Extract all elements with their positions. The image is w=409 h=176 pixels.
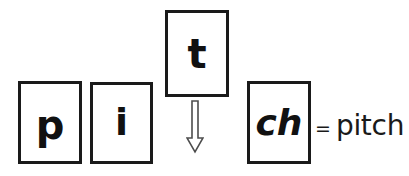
- result-word: pitch: [336, 112, 404, 140]
- letter-tile-i: i: [90, 82, 153, 164]
- equals-sign: =: [315, 119, 331, 138]
- diagram-canvas: p i t ch = pitch: [0, 0, 409, 176]
- letter-tile-label: t: [187, 34, 206, 74]
- letter-tile-p: p: [18, 81, 82, 164]
- equation-result: = pitch: [315, 112, 404, 140]
- letter-tile-t: t: [165, 10, 229, 97]
- letter-tile-label: ch: [256, 105, 303, 141]
- down-arrow-icon: [186, 100, 204, 154]
- letter-tile-label: i: [115, 103, 128, 141]
- letter-tile-ch: ch: [247, 81, 311, 164]
- letter-tile-label: p: [36, 105, 65, 145]
